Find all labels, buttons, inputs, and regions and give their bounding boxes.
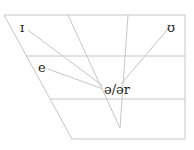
vowel-label-i: ɪ xyxy=(20,21,24,34)
trapezoid-outline xyxy=(4,15,185,139)
vowel-label-u: ʊ xyxy=(167,21,175,34)
vowel-label-schwa: ə/ər xyxy=(104,83,130,96)
vowel-trapezoid xyxy=(0,0,194,150)
vowel-label-e: e xyxy=(38,61,46,74)
glide-line-i xyxy=(28,30,103,86)
central-line-left xyxy=(68,15,120,128)
central-line-right xyxy=(120,15,128,128)
